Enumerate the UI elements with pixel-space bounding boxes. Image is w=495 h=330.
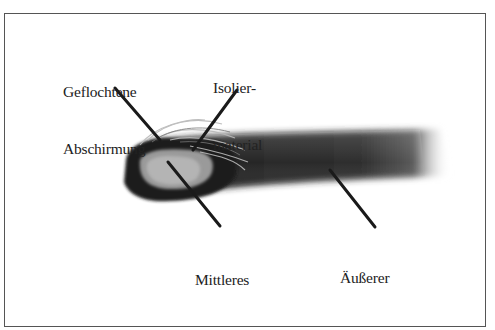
label-braided-shield: Geflochtene Abschirmung bbox=[63, 44, 145, 177]
label-insulation-material: Isolier- material bbox=[213, 40, 262, 173]
label-outer-jacket: Äußerer Isolations- mantel bbox=[340, 230, 403, 330]
label-line: Isolations- bbox=[340, 325, 403, 330]
label-line: material bbox=[213, 135, 262, 154]
label-center-conductor: Mittleres Kabel bbox=[195, 232, 249, 330]
label-line: Mittleres bbox=[195, 270, 249, 289]
label-line: Äußerer bbox=[340, 268, 403, 287]
label-line: Isolier- bbox=[213, 78, 262, 97]
label-line: Geflochtene bbox=[63, 82, 145, 101]
label-line: Abschirmung bbox=[63, 139, 145, 158]
